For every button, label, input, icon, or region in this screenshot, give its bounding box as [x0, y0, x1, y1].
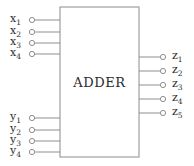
input-terminals-y-group	[29, 115, 34, 154]
output-terminal-z5[interactable]	[160, 110, 165, 115]
input-terminal-y4[interactable]	[29, 149, 34, 154]
input-terminal-x1[interactable]	[29, 17, 34, 22]
output-terminal-z3[interactable]	[160, 82, 165, 87]
input-terminal-x4[interactable]	[29, 51, 34, 56]
input-terminal-y1[interactable]	[29, 115, 34, 120]
input-label-y4: y4	[10, 145, 21, 159]
input-wires-x-group	[35, 20, 61, 54]
output-terminal-z1[interactable]	[160, 54, 165, 59]
output-label-z5: z5	[172, 106, 183, 120]
adder-block-diagram: ADDER x1x2x3x4y1y2y3y4z1z2z3z4z5	[0, 0, 194, 166]
output-label-z4: z4	[172, 92, 183, 106]
output-terminal-z4[interactable]	[160, 96, 165, 101]
output-terminals-z-group	[160, 54, 165, 115]
input-terminals-x-group	[29, 17, 34, 56]
input-terminal-x3[interactable]	[29, 40, 34, 45]
output-wires-z-group	[138, 57, 160, 113]
adder-block-label: ADDER	[73, 75, 126, 90]
output-terminal-z2[interactable]	[160, 68, 165, 73]
output-label-z1: z1	[172, 50, 183, 64]
input-wires-y-group	[35, 118, 61, 152]
input-terminal-y2[interactable]	[29, 127, 34, 132]
output-label-z2: z2	[172, 64, 183, 78]
input-terminal-y3[interactable]	[29, 138, 34, 143]
input-terminal-x2[interactable]	[29, 29, 34, 34]
input-label-x4: x4	[10, 47, 21, 61]
output-label-z3: z3	[172, 78, 183, 92]
